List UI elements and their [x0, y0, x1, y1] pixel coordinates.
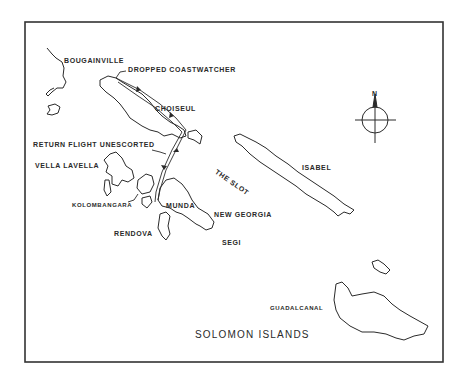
label-return-flight: RETURN FLIGHT UNESCORTED — [33, 141, 155, 148]
route-leader-return — [152, 150, 166, 154]
label-dropped-coastwatcher: DROPPED COASTWATCHER — [128, 66, 236, 73]
kolombangara-islet — [142, 196, 152, 208]
label-new-georgia: NEW GEORGIA — [214, 211, 272, 218]
guadalcanal-island — [334, 282, 428, 340]
label-vella-lavella: VELLA LAVELLA — [35, 162, 99, 169]
route-leader-dropped — [116, 71, 126, 78]
map-frame — [25, 22, 443, 362]
route-leader-kolombangara — [128, 194, 138, 202]
rendova-island — [158, 212, 170, 240]
compass-north-label: N — [372, 90, 377, 97]
map-title: SOLOMON ISLANDS — [195, 329, 310, 340]
vella-islet — [104, 180, 111, 196]
kolombangara-island — [137, 174, 154, 194]
florida-islet — [372, 260, 390, 274]
bougainville-islet — [47, 104, 60, 115]
route-arrow — [173, 148, 179, 152]
label-segi: SEGI — [222, 239, 241, 246]
route-arrow — [136, 86, 141, 92]
vella-lavella-island — [104, 152, 134, 186]
isabel-island — [234, 134, 354, 216]
label-bougainville: BOUGAINVILLE — [64, 57, 124, 64]
compass-rose-icon: N — [355, 90, 396, 143]
label-isabel: ISABEL — [302, 164, 331, 171]
label-rendova: RENDOVA — [114, 230, 153, 237]
label-kolombangara: KOLOMBANGARA — [72, 202, 132, 208]
label-guadalcanal: GUADALCANAL — [270, 305, 323, 311]
choiseul-islet — [188, 130, 202, 144]
bougainville-coast — [46, 48, 66, 96]
label-choiseul: CHOISEUL — [155, 105, 196, 112]
label-munda: MUNDA — [166, 202, 195, 209]
